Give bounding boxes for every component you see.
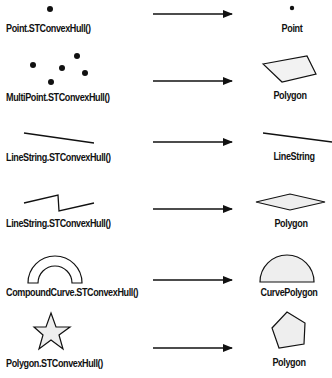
right-diamond-polygon-shape [256,194,325,210]
right-label-polygon-3: Polygon [272,356,305,368]
right-point-shape [290,6,294,10]
right-label-curvepolygon: CurvePolygon [260,286,317,298]
left-label-compoundcurve: CompoundCurve.STConvexHull() [6,286,138,298]
left-straight-linestring-shape [24,133,94,143]
left-arch-compoundcurve-shape [28,256,82,283]
left-star-polygon-shape [34,313,70,349]
diagram-canvas [0,0,332,378]
right-label-polygon-2: Polygon [274,217,307,229]
left-label-point: Point.STConvexHull() [6,22,91,34]
right-label-linestring: LineString [273,150,314,162]
right-label-point: Point [282,22,303,34]
left-label-polygon: Polygon.STConvexHull() [6,357,103,369]
left-label-linestring-2: LineString.STConvexHull() [6,217,111,229]
right-pentagon-polygon-shape [272,312,305,348]
left-label-multipoint: MultiPoint.STConvexHull() [6,91,110,103]
right-label-polygon-1: Polygon [273,89,306,101]
left-zigzag-linestring-shape [24,195,94,211]
right-quadrilateral-shape [263,56,316,82]
left-label-linestring-1: LineString.STConvexHull() [6,151,111,163]
left-point-shape [47,6,53,12]
right-semicircle-curvepolygon-shape [260,255,314,282]
right-straight-linestring-shape [263,133,332,142]
left-multipoint-shape [30,53,88,85]
